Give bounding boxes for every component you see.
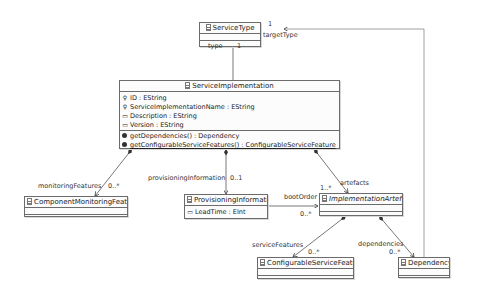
class-icon bbox=[322, 195, 327, 202]
attributes-compartment: ♀ID : EString ♀ServiceImplementationName… bbox=[120, 92, 339, 131]
attributes-compartment bbox=[25, 208, 127, 215]
multiplicity-artefacts: 1..* bbox=[320, 184, 332, 192]
operation-icon bbox=[122, 133, 127, 138]
operations-compartment bbox=[25, 215, 127, 221]
class-name: Dependency bbox=[408, 259, 449, 267]
class-icon bbox=[206, 24, 211, 31]
attribute-icon: ▭ bbox=[122, 120, 128, 129]
class-icon bbox=[401, 259, 406, 266]
class-name: ImplementationArtefact bbox=[329, 195, 402, 203]
multiplicity-dependencies: 0..* bbox=[389, 248, 401, 256]
class-provisioning-information[interactable]: ProvisioningInformation ▭LeadTime : EInt bbox=[184, 194, 268, 219]
multiplicity-monitoring-features: 0..* bbox=[108, 182, 120, 190]
operations-compartment bbox=[320, 212, 402, 218]
role-label-monitoring-features: monitoringFeatures bbox=[38, 182, 101, 190]
multiplicity-target-type: 1 bbox=[268, 20, 272, 28]
class-configurable-service-feature[interactable]: ConfigurableServiceFeature bbox=[257, 257, 354, 279]
attributes-compartment bbox=[200, 34, 260, 41]
attribute-row[interactable]: ♀ServiceImplementationName : EString bbox=[122, 102, 337, 111]
operation-row[interactable]: getConfigurableServiceFeatures() : Confi… bbox=[122, 141, 337, 150]
operation-row[interactable]: getDependencies() : Dependency bbox=[122, 132, 337, 141]
class-implementation-artefact[interactable]: ImplementationArtefact bbox=[319, 193, 403, 216]
key-icon: ♀ bbox=[122, 93, 128, 102]
class-name: ConfigurableServiceFeature bbox=[267, 259, 353, 267]
class-icon bbox=[260, 259, 265, 266]
attributes-compartment: ▭LeadTime : EInt bbox=[185, 206, 267, 217]
attribute-icon: ▭ bbox=[122, 111, 128, 120]
class-name: ComponentMonitoringFeatures bbox=[34, 198, 127, 206]
attribute-row[interactable]: ▭Description : EString bbox=[122, 111, 337, 120]
role-label-boot-order: bootOrder bbox=[284, 193, 317, 201]
class-name: ProvisioningInformation bbox=[194, 196, 267, 204]
attributes-compartment bbox=[320, 205, 402, 212]
role-label-provisioning-information: provisioningInformation bbox=[148, 174, 225, 182]
operations-compartment bbox=[399, 276, 449, 282]
attributes-compartment bbox=[399, 269, 449, 276]
class-icon bbox=[27, 198, 32, 205]
multiplicity-service-features: 0..* bbox=[308, 248, 320, 256]
role-label-target-type: targetType bbox=[263, 31, 298, 39]
attribute-row[interactable]: ♀ID : EString bbox=[122, 93, 337, 102]
role-label-dependencies: dependencies bbox=[358, 240, 403, 248]
attribute-row[interactable]: ▭Version : EString bbox=[122, 120, 337, 129]
operation-icon bbox=[122, 142, 127, 147]
class-name: ServiceType bbox=[213, 24, 255, 32]
class-icon bbox=[185, 82, 190, 89]
multiplicity-boot-order: 0..* bbox=[300, 210, 312, 218]
class-component-monitoring-features[interactable]: ComponentMonitoringFeatures bbox=[24, 196, 128, 217]
operations-compartment: getDependencies() : Dependency getConfig… bbox=[120, 131, 339, 151]
operations-compartment bbox=[258, 276, 353, 282]
attributes-compartment bbox=[258, 269, 353, 276]
key-icon: ♀ bbox=[122, 102, 128, 111]
class-dependency[interactable]: Dependency bbox=[398, 257, 450, 278]
attribute-icon: ▭ bbox=[187, 207, 193, 216]
class-icon bbox=[187, 196, 192, 203]
attribute-row[interactable]: ▭LeadTime : EInt bbox=[187, 207, 265, 216]
class-name: ServiceImplementation bbox=[192, 82, 273, 90]
role-label-service-features: serviceFeatures bbox=[252, 241, 303, 249]
multiplicity-provisioning-information: 0..1 bbox=[230, 174, 242, 182]
class-service-implementation[interactable]: ServiceImplementation ♀ID : EString ♀Ser… bbox=[119, 80, 340, 149]
role-label-artefacts: artefacts bbox=[340, 179, 369, 187]
role-label-type: type bbox=[208, 42, 223, 50]
multiplicity-type: 1 bbox=[237, 42, 241, 50]
